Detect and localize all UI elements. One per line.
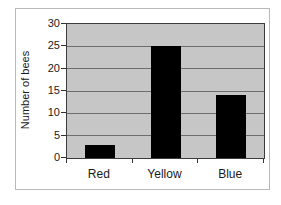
y-tick-label-30: 30	[32, 16, 60, 30]
y-axis-title-text: Number of bees	[19, 51, 31, 129]
y-tick-mark-15	[61, 90, 66, 91]
x-cat-label-blue: Blue	[197, 167, 263, 181]
y-tick-mark-20	[61, 68, 66, 69]
bar-yellow	[151, 46, 181, 158]
y-tick-mark-5	[61, 135, 66, 136]
y-tick-mark-10	[61, 112, 66, 113]
x-tick-mark-3	[263, 159, 264, 163]
chart-frame: Number of bees 051015202530 RedYellowBlu…	[15, 8, 270, 190]
bar-red	[85, 145, 115, 158]
bar-blue	[216, 95, 246, 158]
y-tick-label-20: 20	[32, 61, 60, 75]
y-tick-mark-30	[61, 23, 66, 24]
y-tick-label-10: 10	[32, 105, 60, 119]
x-tick-mark-1	[132, 159, 133, 163]
y-tick-mark-25	[61, 45, 66, 46]
y-tick-label-25: 25	[32, 38, 60, 52]
x-tick-mark-0	[66, 159, 67, 163]
x-tick-mark-2	[197, 159, 198, 163]
y-tick-label-0: 0	[32, 150, 60, 164]
y-tick-label-15: 15	[32, 83, 60, 97]
x-cat-label-yellow: Yellow	[132, 167, 198, 181]
x-cat-label-red: Red	[66, 167, 132, 181]
plot-area	[66, 23, 265, 159]
y-tick-mark-0	[61, 157, 66, 158]
y-axis-title: Number of bees	[17, 23, 33, 157]
y-tick-label-5: 5	[32, 128, 60, 142]
